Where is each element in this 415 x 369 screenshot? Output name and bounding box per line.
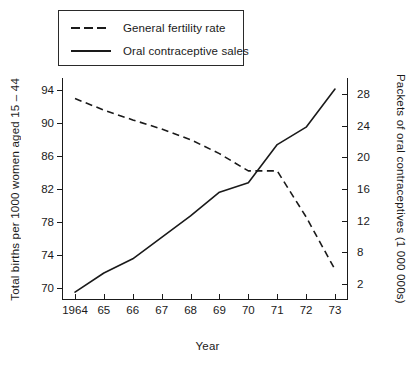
y-axis-left-tick-label: 78 (41, 216, 54, 228)
y-axis-left-tick-label: 90 (41, 117, 54, 129)
fertility-contraceptive-line-chart: General fertility rate Oral contraceptiv… (0, 0, 415, 369)
x-axis-tick-label: 67 (155, 304, 168, 316)
general-fertility-rate-line (75, 99, 335, 270)
y-axis-left-tick-label: 74 (41, 249, 54, 261)
chart-legend: General fertility rate Oral contraceptiv… (58, 10, 244, 66)
x-axis-tick-label: 70 (242, 304, 255, 316)
x-axis-title: Year (0, 340, 415, 352)
x-axis-tick-label: 71 (271, 304, 284, 316)
oral-contraceptive-sales-line (75, 89, 335, 292)
x-axis-tick-label: 72 (300, 304, 313, 316)
x-axis-tick-label: 1964 (62, 304, 88, 316)
y-axis-right-tick-label: 8 (357, 246, 363, 258)
y-axis-left-tick-label: 86 (41, 150, 54, 162)
x-axis-tick-label: 69 (213, 304, 226, 316)
y-axis-left-title: Total births per 1000 women aged 15 – 44 (6, 78, 24, 300)
y-axis-left-tick-label: 70 (41, 282, 54, 294)
plot-area: 94908682787470 282420161282 196465666768… (62, 78, 348, 300)
x-axis-tick-label: 66 (126, 304, 139, 316)
solid-line-swatch-icon (69, 45, 117, 57)
dashed-line-swatch-icon (69, 22, 117, 34)
y-axis-right-tick-label: 16 (357, 183, 370, 195)
legend-label: General fertility rate (123, 22, 226, 34)
x-axis-tick-label: 65 (97, 304, 110, 316)
y-axis-right-tick-label: 20 (357, 151, 370, 163)
y-axis-left-tick-label: 94 (41, 84, 54, 96)
legend-item-oral-contraceptive-sales: Oral contraceptive sales (69, 43, 249, 59)
y-axis-right-tick-label: 12 (357, 215, 370, 227)
y-axis-right-tick-label: 24 (357, 120, 370, 132)
legend-item-general-fertility-rate: General fertility rate (69, 20, 226, 36)
legend-label: Oral contraceptive sales (123, 45, 249, 57)
y-axis-left-tick-label: 82 (41, 183, 54, 195)
series-lines (62, 78, 348, 300)
y-axis-right-tick-label: 2 (357, 278, 363, 290)
x-axis-tick-label: 73 (329, 304, 342, 316)
x-axis-tick-label: 68 (184, 304, 197, 316)
y-axis-right-title: Packets of oral contraceptives (1 000 00… (392, 78, 410, 300)
y-axis-right-tick-label: 28 (357, 88, 370, 100)
